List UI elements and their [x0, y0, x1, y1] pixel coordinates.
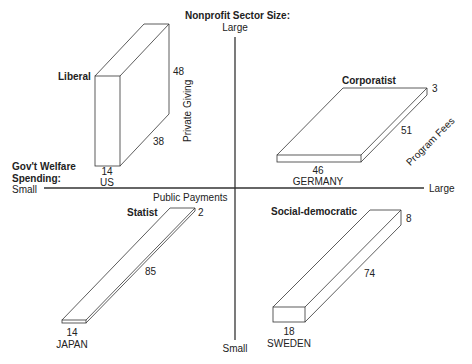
social-democratic-regime-label: Social-democratic	[271, 206, 357, 218]
liberal-program-fees-value: 38	[153, 136, 164, 148]
liberal-private-giving-value: 48	[173, 66, 184, 78]
liberal-country: US	[92, 177, 122, 189]
vertical-axis-top-label: Large	[205, 22, 265, 34]
liberal-regime-label: Liberal	[58, 71, 91, 83]
statist-private-giving-value: 2	[198, 207, 204, 219]
statist-public-payments-value: 14	[57, 327, 87, 339]
social-democratic-private-giving-value: 8	[406, 213, 412, 225]
social-democratic-program-fees-value: 74	[364, 268, 375, 280]
social-democratic-box	[273, 210, 401, 322]
horizontal-axis-right-label: Large	[429, 183, 455, 195]
corporatist-private-giving-value: 3	[432, 83, 438, 95]
horizontal-axis-title-line1: Gov't Welfare	[12, 161, 76, 173]
statist-country: JAPAN	[50, 339, 94, 351]
private-giving-label: Private Giving	[182, 80, 194, 142]
social-democratic-public-payments-value: 18	[274, 326, 304, 338]
statist-regime-label: Statist	[127, 207, 158, 219]
statist-box	[62, 208, 195, 323]
diagram-canvas	[0, 0, 472, 364]
corporatist-regime-label: Corporatist	[342, 75, 396, 87]
corporatist-country: GERMANY	[283, 176, 353, 188]
corporatist-program-fees-value: 51	[401, 125, 412, 137]
social-democratic-country: SWEDEN	[264, 338, 314, 350]
vertical-axis-bottom-label: Small	[205, 343, 265, 355]
horizontal-axis-left-label: Small	[12, 184, 37, 196]
vertical-axis-title: Nonprofit Sector Size:	[185, 10, 285, 22]
statist-program-fees-value: 85	[145, 266, 156, 278]
public-payments-label: Public Payments	[153, 192, 227, 204]
